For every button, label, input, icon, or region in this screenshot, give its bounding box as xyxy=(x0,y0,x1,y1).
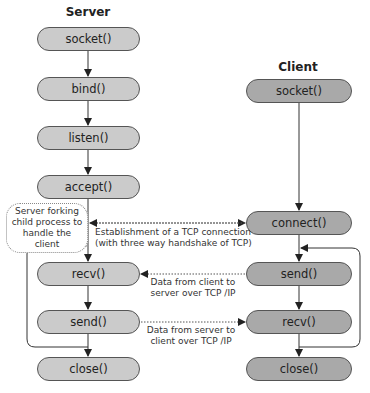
server-accept-node: accept() xyxy=(37,175,140,199)
tcp-establish-line2: (with three way handshake of TCP) xyxy=(95,238,235,249)
client-to-server-line2: server over TCP /IP xyxy=(148,288,238,299)
client-to-server-label: Data from client to server over TCP /IP xyxy=(148,277,238,299)
client-connect-node: connect() xyxy=(246,211,352,235)
client-recv-node: recv() xyxy=(246,310,352,334)
server-socket-node: socket() xyxy=(37,27,140,51)
server-close-node: close() xyxy=(37,357,140,381)
server-bind-node: bind() xyxy=(37,77,140,101)
tcp-establish-line1: Establishment of a TCP connection xyxy=(95,227,235,238)
server-listen-node: listen() xyxy=(37,126,140,150)
tcp-establish-label: Establishment of a TCP connection (with … xyxy=(95,227,235,249)
client-send-node: send() xyxy=(246,262,352,286)
client-socket-node: socket() xyxy=(246,79,352,103)
server-to-client-label: Data from server to client over TCP /IP xyxy=(145,325,237,347)
client-to-server-line1: Data from client to xyxy=(148,277,238,288)
server-title: Server xyxy=(38,5,138,19)
fork-note: Server forking child process to handle t… xyxy=(6,203,88,253)
server-to-client-line2: client over TCP /IP xyxy=(145,336,237,347)
server-to-client-line1: Data from server to xyxy=(145,325,237,336)
server-send-node: send() xyxy=(37,310,140,334)
client-close-node: close() xyxy=(246,357,352,381)
client-title: Client xyxy=(248,60,348,74)
server-recv-node: recv() xyxy=(37,262,140,286)
